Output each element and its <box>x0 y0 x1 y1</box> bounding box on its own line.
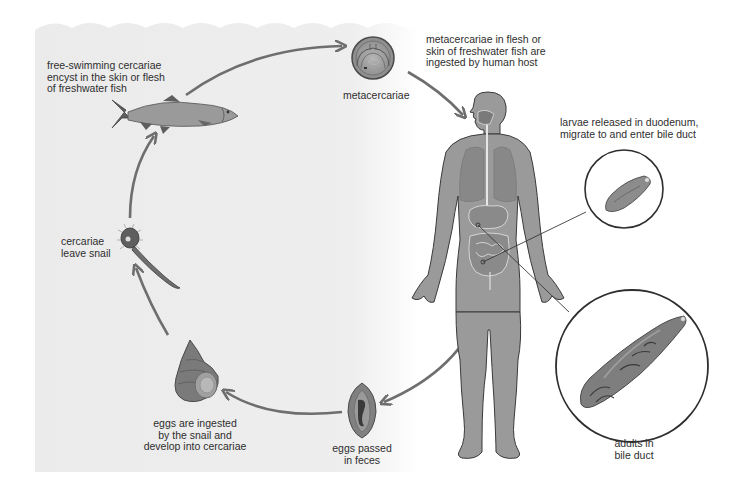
label-larvae-stage: larvae released in duodenum, migrate to … <box>560 117 698 140</box>
metacercariae-cyst-icon <box>352 37 394 79</box>
label-fish-stage: free-swimming cercariae encyst in the sk… <box>47 60 165 95</box>
label-cercariae-stage: cercariae leave snail <box>61 236 111 259</box>
label-adults-stage: adults in bile duct <box>608 438 660 461</box>
label-metacercariae: metacercariae <box>343 90 405 102</box>
label-eggs-stage: eggs passed in feces <box>330 443 394 466</box>
larvae-inset-icon <box>585 150 663 228</box>
adults-inset-icon <box>556 290 708 442</box>
label-snail-stage: eggs are ingested by the snail and devel… <box>130 418 260 453</box>
life-cycle-diagram: free-swimming cercariae encyst in the sk… <box>0 0 750 487</box>
label-ingestion-stage: metacercariae in flesh or skin of freshw… <box>426 34 546 69</box>
